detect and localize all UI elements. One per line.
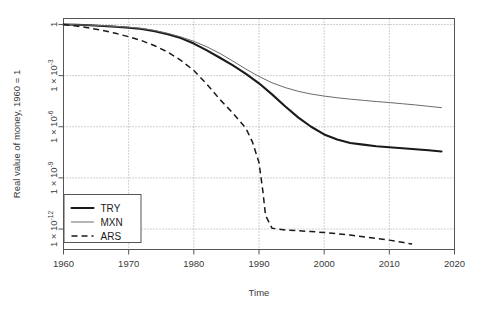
legend-label-ars: ARS (101, 231, 122, 242)
y-tick-label: 1 (48, 22, 59, 27)
x-tick-label: 1980 (183, 258, 204, 269)
x-tick-label: 2000 (314, 258, 335, 269)
x-tick-label: 2010 (379, 258, 400, 269)
x-axis-title: Time (249, 287, 270, 298)
x-tick-label: 1970 (118, 258, 139, 269)
money-value-line-chart: 1960197019801990200020102020 11 × 10-31 … (0, 0, 495, 310)
legend-label-try: TRY (101, 203, 121, 214)
chart-container: 1960197019801990200020102020 11 × 10-31 … (0, 0, 495, 310)
x-tick-label: 1960 (53, 258, 74, 269)
chart-legend[interactable]: TRYMXNARS (64, 195, 141, 243)
x-tick-label: 1990 (248, 258, 269, 269)
x-tick-label: 2020 (444, 258, 465, 269)
legend-label-mxn: MXN (101, 217, 123, 228)
y-axis-title: Real value of money, 1960 = 1 (11, 70, 22, 198)
